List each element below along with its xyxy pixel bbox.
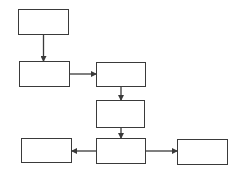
flow-node-3 [96,62,146,87]
flow-node-5 [96,138,146,164]
flow-node-7 [177,139,228,165]
flow-node-1 [18,9,69,35]
flow-node-6 [21,138,72,163]
flow-node-4 [96,100,145,128]
flow-node-2 [19,61,70,87]
